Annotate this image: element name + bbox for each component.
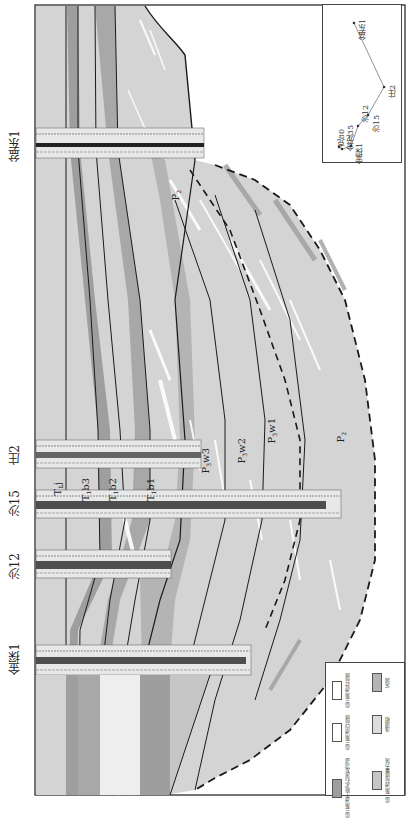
well-log-pendong1 <box>36 128 204 158</box>
strat-label-p3w1: P3w1 <box>266 418 278 443</box>
legend-swatch <box>332 779 342 798</box>
well-label-sha12: 沙12 <box>6 553 23 580</box>
legend-item-inner-front: 扇三角洲内前缘 <box>332 715 350 750</box>
inset-location-map: 盆东1 庄2 沙15 沙12 金探1 金龙35 克80 <box>322 4 402 163</box>
well-log-zhuang2 <box>36 440 201 468</box>
legend-swatch <box>372 673 382 692</box>
strat-label-p2-lower: P2 <box>335 432 347 443</box>
legend-item-front-gravity-flow: 扇三角洲前缘重力流 <box>372 758 390 803</box>
strat-label-t1b1: T1b1 <box>145 478 157 501</box>
strat-label-p2-upper: P2 <box>170 190 182 201</box>
inset-label-ke80: 克80 <box>336 129 347 147</box>
legend: 扇三角洲外前缘 滨湖 扇三角洲内前缘 浅湖相 扇三角洲平原泥石流及河道 扇三角洲… <box>325 662 405 796</box>
legend-swatch <box>372 715 382 734</box>
strat-label-t1j: T1j <box>52 482 64 496</box>
strat-label-p3w3: P3w3 <box>200 448 212 473</box>
well-log-jintan1 <box>36 645 251 675</box>
well-label-sha15: 沙15 <box>6 490 23 517</box>
inset-label-sha15: 沙15 <box>371 115 382 133</box>
legend-swatch <box>332 723 342 742</box>
well-label-zhuang2: 庄2 <box>6 445 23 465</box>
strat-label-t1b2: T1b2 <box>107 478 119 501</box>
well-label-pendong1: 盆东1 <box>6 130 23 162</box>
legend-swatch <box>372 771 382 790</box>
legend-item-outer-front: 扇三角洲外前缘 <box>332 673 350 708</box>
strat-label-p3w2: P3w2 <box>236 438 248 463</box>
legend-item-shallow-lake: 浅湖相 <box>372 715 390 734</box>
legend-item-shore-lake: 滨湖 <box>372 673 390 692</box>
inset-label-sha12: 沙12 <box>360 105 371 123</box>
inset-label-zhuang2: 庄2 <box>387 85 398 98</box>
well-label-jintan1: 金探1 <box>6 643 23 675</box>
legend-swatch <box>332 681 342 700</box>
inset-label-pendong1: 盆东1 <box>357 19 368 40</box>
well-log-sha12 <box>36 550 171 578</box>
legend-item-plain-debris-channel: 扇三角洲平原泥石流及河道 <box>332 758 350 818</box>
strat-label-t1b3: T1b3 <box>80 478 92 501</box>
